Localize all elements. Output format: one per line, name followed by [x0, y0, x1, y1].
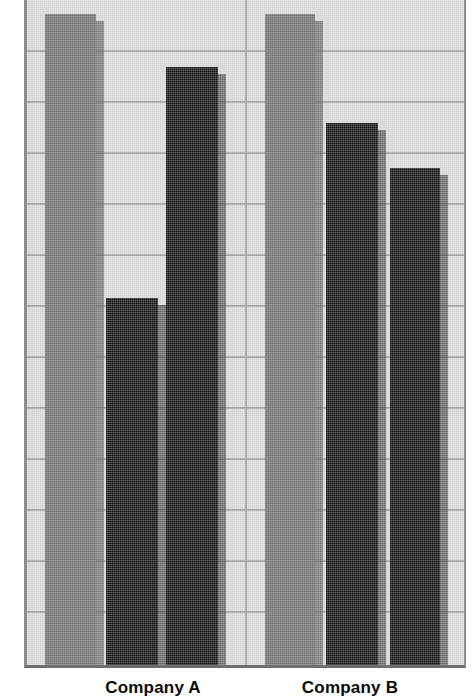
bar-body: [265, 14, 315, 665]
bar-company-a-series-3[interactable]: [166, 67, 218, 665]
bar-company-b-series-3[interactable]: [390, 168, 440, 665]
bar-company-b-series-2[interactable]: [326, 123, 378, 665]
bar-shadow-face: [315, 21, 323, 668]
bar-body: [45, 14, 96, 665]
bar-shadow-face: [158, 305, 166, 668]
bar-shadow-face: [96, 21, 104, 668]
bar-shadow-face: [440, 175, 448, 668]
bar-shadow-face: [218, 74, 226, 668]
bar-body: [390, 168, 440, 665]
bar-company-a-series-1[interactable]: [45, 14, 96, 665]
category-label-company-a: Company A: [63, 678, 243, 697]
bar-chart: Company ACompany B: [0, 0, 473, 697]
bar-shadow-face: [378, 130, 386, 668]
category-label-company-b: Company B: [260, 678, 440, 697]
bar-company-a-series-2[interactable]: [106, 298, 158, 665]
plot-area: [24, 0, 466, 668]
bar-body: [326, 123, 378, 665]
bar-company-b-series-1[interactable]: [265, 14, 315, 665]
bar-body: [106, 298, 158, 665]
gridline-vertical-0: [245, 0, 247, 665]
bar-body: [166, 67, 218, 665]
